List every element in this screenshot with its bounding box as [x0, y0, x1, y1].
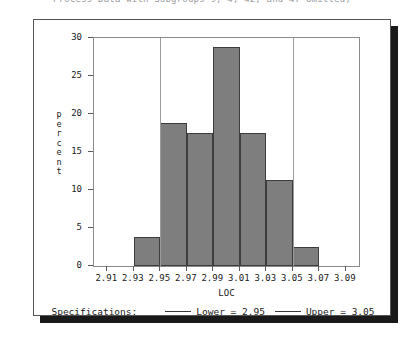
y-axis-label-letter: t — [54, 167, 64, 177]
x-axis-tick-label: 2.97 — [175, 274, 197, 283]
histogram-bar — [160, 123, 187, 266]
x-axis-tick-mark — [345, 266, 346, 271]
y-axis-tick-label: 10 — [71, 185, 82, 194]
y-axis-tick-label: 0 — [77, 261, 82, 270]
x-axis-tick-label: 2.99 — [201, 274, 223, 283]
legend-label-lower: Lower = 2.95 — [196, 306, 265, 317]
chart-panel: percent 051015202530 2.912.932.952.972.9… — [33, 19, 391, 316]
x-axis-tick-label: 2.91 — [95, 274, 117, 283]
legend-entry-lower: Lower = 2.95 — [165, 306, 265, 317]
y-axis-tick-label: 25 — [71, 71, 82, 80]
histogram-bar — [293, 247, 320, 266]
x-axis-tick-label: 2.93 — [122, 274, 144, 283]
y-axis-tick-label: 20 — [71, 109, 82, 118]
plot-area — [93, 37, 360, 267]
legend-title: Specifications: — [51, 306, 137, 317]
x-axis-tick-label: 2.95 — [148, 274, 170, 283]
legend: Specifications: Lower = 2.95 Upper = 3.0… — [34, 306, 392, 317]
legend-line-icon — [275, 311, 301, 312]
legend-label-upper: Upper = 3.05 — [306, 306, 375, 317]
y-axis-tick-label: 15 — [71, 147, 82, 156]
x-axis-tick-mark — [106, 266, 107, 271]
x-axis-label: LOC — [93, 288, 360, 298]
histogram-bar — [213, 47, 240, 266]
x-axis-tick-mark — [318, 266, 319, 271]
x-axis-tick-mark — [292, 266, 293, 271]
x-axis-tick-label: 3.01 — [228, 274, 250, 283]
clipped-window-title: Process Data with Subgroups 9, 4, 42, an… — [0, 0, 404, 6]
x-axis-tick-mark — [212, 266, 213, 271]
y-axis-label: percent — [54, 110, 64, 177]
legend-line-icon — [165, 311, 191, 312]
x-axis-tick-label: 3.03 — [254, 274, 276, 283]
x-axis-tick-mark — [265, 266, 266, 271]
y-axis-tick-label: 30 — [71, 33, 82, 42]
lower-spec-line — [160, 38, 161, 266]
x-axis-tick-mark — [159, 266, 160, 271]
histogram-bar — [134, 237, 161, 266]
x-axis-tick-mark — [239, 266, 240, 271]
histogram-bar — [187, 133, 214, 266]
y-axis-tick-label: 5 — [77, 223, 82, 232]
x-axis-tick-label: 3.05 — [281, 274, 303, 283]
x-axis-tick-label: 3.09 — [334, 274, 356, 283]
x-axis-tick-label: 3.07 — [307, 274, 329, 283]
legend-entry-upper: Upper = 3.05 — [275, 306, 375, 317]
upper-spec-line — [293, 38, 294, 266]
x-axis-tick-mark — [133, 266, 134, 271]
histogram-bar — [240, 133, 267, 266]
histogram-bar — [266, 180, 293, 266]
x-axis-tick-mark — [186, 266, 187, 271]
